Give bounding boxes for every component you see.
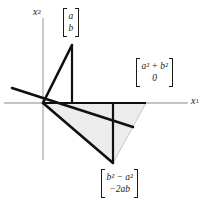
rotated-vector-row-2: 0 <box>152 72 157 85</box>
input-vector-row-2: b <box>69 22 74 35</box>
reflected-vector-row-1: b² − a² <box>107 171 133 184</box>
input-vector-row-1: a <box>69 10 74 23</box>
reflected-vector-label: b² − a² −2ab <box>101 169 138 198</box>
input-vector-label: a b <box>63 8 79 37</box>
bracket-left-icon <box>101 169 105 198</box>
rotated-vector-label: a² + b² 0 <box>136 58 173 87</box>
rotated-vector-rows: a² + b² 0 <box>142 58 168 87</box>
input-vector-rows: a b <box>69 8 74 37</box>
bracket-right-icon <box>169 58 173 87</box>
reflected-vector-rows: b² − a² −2ab <box>107 169 133 198</box>
upper-triangle-group <box>43 45 146 103</box>
x2-axis-label-subscript: 2 <box>37 9 41 16</box>
bracket-right-icon <box>134 169 138 198</box>
bracket-left-icon <box>63 8 67 37</box>
input-vector-ray <box>43 45 72 103</box>
shaded-region-group <box>43 103 146 163</box>
x1-axis-label-subscript: 1 <box>195 98 199 105</box>
rotated-vector-row-1: a² + b² <box>142 60 168 73</box>
x1-axis-label: x1 <box>191 96 199 106</box>
shaded-triangle <box>43 103 146 163</box>
x2-axis-label: x2 <box>33 7 41 17</box>
input-vector-matrix: a b <box>63 8 79 37</box>
bracket-right-icon <box>75 8 79 37</box>
reflected-vector-row-2: −2ab <box>109 183 130 196</box>
bracket-left-icon <box>136 58 140 87</box>
reflected-vector-matrix: b² − a² −2ab <box>101 169 138 198</box>
rotated-vector-matrix: a² + b² 0 <box>136 58 173 87</box>
